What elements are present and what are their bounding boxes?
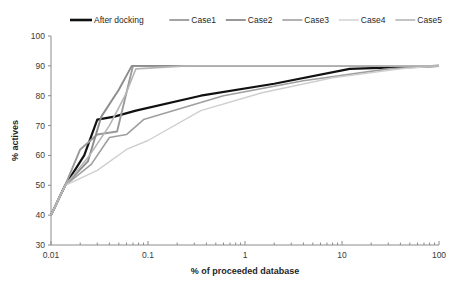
line-chart: After dockingCase1Case2Case3Case4Case5 3… bbox=[0, 0, 453, 288]
x-tick-label: 100 bbox=[432, 250, 446, 260]
x-axis-title: % of proceeded database bbox=[191, 266, 300, 276]
x-tick-label: 0.1 bbox=[142, 250, 154, 260]
y-tick-label: 70 bbox=[36, 121, 46, 131]
y-tick-label: 60 bbox=[36, 150, 46, 160]
x-tick-label: 0.01 bbox=[43, 250, 60, 260]
series-line-after-docking bbox=[51, 66, 439, 215]
chart-container: After dockingCase1Case2Case3Case4Case5 3… bbox=[0, 0, 453, 288]
x-tick-label: 10 bbox=[337, 250, 347, 260]
x-tick-label: 1 bbox=[243, 250, 248, 260]
legend-label-after-docking: After docking bbox=[94, 15, 144, 25]
y-axis-title: % actives bbox=[10, 120, 20, 161]
legend-label-case1: Case1 bbox=[191, 15, 216, 25]
y-tick-label: 100 bbox=[31, 31, 45, 41]
chart-series bbox=[51, 66, 439, 215]
y-tick-label: 80 bbox=[36, 91, 46, 101]
legend-label-case2: Case2 bbox=[248, 15, 273, 25]
legend-label-case3: Case3 bbox=[304, 15, 329, 25]
chart-legend: After dockingCase1Case2Case3Case4Case5 bbox=[70, 15, 442, 25]
legend-label-case5: Case5 bbox=[417, 15, 442, 25]
y-tick-label: 40 bbox=[36, 210, 46, 220]
y-tick-label: 90 bbox=[36, 61, 46, 71]
legend-label-case4: Case4 bbox=[361, 15, 386, 25]
y-tick-label: 30 bbox=[36, 240, 46, 250]
y-tick-label: 50 bbox=[36, 180, 46, 190]
